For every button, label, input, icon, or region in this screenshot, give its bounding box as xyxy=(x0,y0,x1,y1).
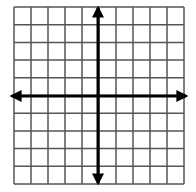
coordinate-plane xyxy=(0,0,196,192)
